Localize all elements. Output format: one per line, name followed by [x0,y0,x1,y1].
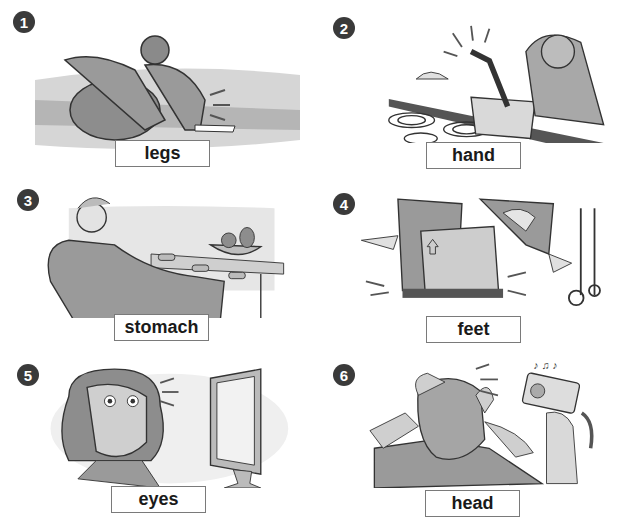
svg-text:♪ ♫ ♪: ♪ ♫ ♪ [533,360,557,371]
label-legs: legs [115,140,210,167]
label-eyes: eyes [111,486,206,513]
label-head: head [425,490,520,517]
panel-1: 1 legs [0,0,300,170]
panel-5: 5 eyes [0,350,300,520]
feet-illustration [350,190,615,318]
hand-illustration [350,15,615,143]
panel-4: 4 feet [320,175,620,345]
legs-illustration [35,30,300,158]
head-illustration: ♪ ♫ ♪ [350,360,615,488]
label-stomach: stomach [114,314,209,341]
panel-6: 6 ♪ ♫ ♪ head [320,350,620,520]
panel-3: 3 stomach [0,175,300,345]
stomach-illustration [30,190,295,318]
label-hand: hand [426,142,521,169]
number-badge: 1 [13,11,35,33]
label-feet: feet [426,316,521,343]
eyes-illustration [30,360,295,488]
panel-2: 2 hand [320,0,620,170]
